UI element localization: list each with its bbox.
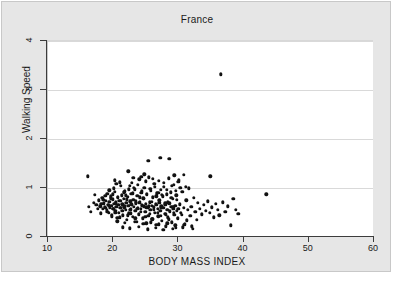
data-point bbox=[143, 173, 146, 176]
data-point bbox=[155, 203, 158, 206]
data-point bbox=[157, 179, 160, 182]
y-tick-1 bbox=[40, 187, 46, 188]
data-point bbox=[196, 201, 199, 204]
data-point bbox=[87, 205, 90, 208]
x-tick-40 bbox=[243, 237, 244, 242]
data-point bbox=[175, 198, 178, 201]
data-point bbox=[177, 178, 180, 181]
x-tick-50 bbox=[308, 237, 309, 242]
data-point bbox=[209, 175, 212, 178]
data-point bbox=[185, 219, 188, 222]
data-point bbox=[195, 218, 198, 221]
data-point bbox=[186, 208, 189, 211]
data-point bbox=[93, 193, 96, 196]
data-point bbox=[180, 213, 183, 216]
data-point bbox=[143, 215, 146, 218]
data-point bbox=[171, 227, 174, 230]
data-point bbox=[160, 219, 163, 222]
x-tick-label: 40 bbox=[228, 243, 258, 253]
data-point bbox=[137, 225, 140, 228]
data-point bbox=[143, 186, 146, 189]
data-point bbox=[147, 176, 150, 179]
data-point bbox=[147, 159, 150, 162]
data-point bbox=[168, 157, 171, 160]
data-point bbox=[121, 214, 124, 217]
data-point bbox=[185, 199, 188, 202]
data-point bbox=[214, 202, 217, 205]
scatter-plot-figure: France 01234 102030405060 Walking Speed … bbox=[0, 0, 394, 284]
data-point bbox=[192, 196, 195, 199]
data-point bbox=[224, 210, 227, 213]
data-point bbox=[160, 206, 163, 209]
x-tick-label: 20 bbox=[97, 243, 127, 253]
data-point bbox=[226, 204, 229, 207]
y-tick-0 bbox=[40, 236, 46, 237]
data-point bbox=[170, 184, 173, 187]
data-point bbox=[194, 210, 197, 213]
gridline-y-2 bbox=[48, 139, 373, 140]
data-point bbox=[178, 202, 181, 205]
data-point bbox=[128, 208, 131, 211]
data-point bbox=[137, 213, 140, 216]
data-point bbox=[212, 216, 215, 219]
data-point bbox=[141, 222, 144, 225]
data-point bbox=[206, 200, 209, 203]
data-point bbox=[204, 209, 207, 212]
data-point bbox=[140, 190, 143, 193]
data-point bbox=[89, 210, 92, 213]
data-point bbox=[126, 170, 129, 173]
data-point bbox=[149, 221, 152, 224]
data-point bbox=[265, 193, 268, 196]
chart-title: France bbox=[2, 14, 392, 25]
data-point bbox=[128, 226, 131, 229]
data-point bbox=[113, 211, 116, 214]
data-point bbox=[182, 206, 185, 209]
data-point bbox=[159, 188, 162, 191]
x-tick-label: 50 bbox=[293, 243, 323, 253]
y-axis-line bbox=[46, 40, 47, 237]
data-point bbox=[115, 220, 118, 223]
x-tick-60 bbox=[373, 237, 374, 242]
data-point bbox=[190, 205, 193, 208]
data-point bbox=[218, 214, 221, 217]
data-point bbox=[121, 225, 124, 228]
data-point bbox=[237, 212, 240, 215]
data-point bbox=[200, 213, 203, 216]
data-point bbox=[229, 224, 232, 227]
data-point bbox=[231, 197, 234, 200]
data-point bbox=[144, 179, 147, 182]
data-point bbox=[111, 193, 114, 196]
gridline-y-1 bbox=[48, 188, 373, 189]
data-point bbox=[187, 187, 190, 190]
data-point bbox=[131, 192, 134, 195]
data-point bbox=[181, 190, 184, 193]
data-point bbox=[216, 208, 219, 211]
data-point bbox=[166, 222, 169, 225]
data-point bbox=[157, 223, 160, 226]
data-point bbox=[108, 189, 111, 192]
data-point bbox=[158, 156, 161, 159]
data-point bbox=[181, 225, 184, 228]
data-point bbox=[198, 207, 201, 210]
data-point bbox=[219, 73, 222, 76]
data-point bbox=[174, 189, 177, 192]
data-point bbox=[123, 221, 126, 224]
y-tick-3 bbox=[40, 89, 46, 90]
data-point bbox=[118, 216, 121, 219]
data-point bbox=[139, 210, 142, 213]
x-tick-label: 30 bbox=[162, 243, 192, 253]
y-tick-label: 1 bbox=[20, 181, 38, 193]
data-point bbox=[169, 191, 172, 194]
data-point bbox=[121, 209, 124, 212]
y-axis-title: Walking Speed bbox=[21, 50, 32, 150]
data-point bbox=[86, 175, 89, 178]
data-point bbox=[143, 210, 146, 213]
y-tick-4 bbox=[40, 40, 46, 41]
x-tick-label: 60 bbox=[358, 243, 388, 253]
data-point bbox=[182, 173, 185, 176]
x-tick-label: 10 bbox=[32, 243, 62, 253]
data-point bbox=[104, 194, 107, 197]
data-point bbox=[140, 175, 143, 178]
x-tick-30 bbox=[177, 237, 178, 242]
data-point bbox=[130, 181, 133, 184]
